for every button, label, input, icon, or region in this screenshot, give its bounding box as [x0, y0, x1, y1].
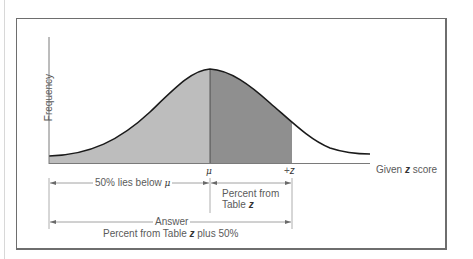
answer-label: Answer: [153, 216, 190, 227]
z-tick-var: z: [290, 165, 295, 176]
x-axis-label: Given z score: [376, 164, 437, 175]
right-bracket-label-line2: Table z: [222, 199, 254, 210]
left-bracket-label: 50% lies below μ: [93, 177, 172, 189]
right-bracket-label-line2-var: z: [249, 199, 254, 210]
x-axis-label-prefix: Given: [376, 164, 405, 175]
right-bracket-label-line2-text: Table: [222, 199, 249, 210]
answer-bracket-arrow-left: [50, 220, 56, 224]
answer-sub-label: Percent from Table z plus 50%: [103, 228, 238, 239]
left-bracket-arrow-right: [203, 181, 209, 185]
mean-to-z-region: [210, 69, 292, 163]
right-bracket-arrow-right: [285, 181, 291, 185]
y-axis-label: Frequency: [43, 68, 54, 128]
left-bracket-mu: μ: [164, 178, 170, 188]
z-tick-label: +z: [284, 165, 295, 176]
mu-tick-label: μ: [206, 165, 212, 177]
left-bracket-label-text: 50% lies below: [95, 177, 164, 188]
mu-symbol: μ: [206, 166, 212, 176]
answer-sub-text: Percent from Table: [103, 228, 190, 239]
answer-bracket-arrow-right: [285, 220, 291, 224]
x-axis-label-suffix: score: [410, 164, 437, 175]
right-bracket-arrow-left: [211, 181, 217, 185]
answer-sub-suffix: plus 50%: [195, 228, 239, 239]
right-bracket-label-line1: Percent from: [222, 188, 279, 199]
normal-curve-diagram: [0, 0, 473, 259]
left-bracket-arrow-left: [50, 181, 56, 185]
below-mean-region: [49, 69, 210, 163]
